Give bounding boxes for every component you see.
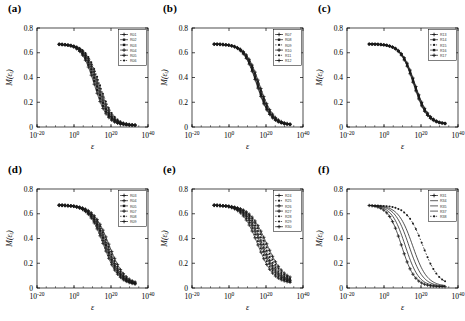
plot-area: 00.20.40.60.810-2010010201040εM(εᵢ)R31R3… (310, 161, 465, 321)
y-tick-label: 0.8 (179, 24, 189, 33)
legend-sample-marker (278, 44, 280, 46)
y-tick-label: 0.4 (334, 234, 344, 243)
legend-label: R37 (440, 209, 447, 213)
series-marker (61, 44, 63, 46)
series-marker (119, 120, 121, 122)
plot-svg: 00.20.40.60.810-2010010201040εM(εᵢ)R07R0… (155, 0, 310, 160)
series-marker (257, 240, 259, 242)
legend-label: R16 (440, 49, 447, 53)
legend-label: R27 (285, 209, 292, 213)
figure-panel-grid: (a)00.20.40.60.810-2010010201040εM(εᵢ)R0… (0, 0, 465, 321)
series-marker (386, 205, 388, 207)
chart-panel-f: (f)00.20.40.60.810-2010010201040εM(εᵢ)R3… (310, 161, 465, 321)
x-tick-label: 1020 (260, 130, 273, 140)
y-tick-label: 0.2 (334, 258, 344, 267)
series-marker (117, 119, 119, 121)
series-marker (371, 204, 373, 206)
x-tick-label: 100 (69, 291, 80, 301)
series-marker (131, 124, 133, 126)
x-tick-label: 1020 (105, 291, 118, 301)
y-tick-label: 0.4 (179, 234, 189, 243)
series-marker (263, 254, 265, 256)
chart-panel-e: (e)00.20.40.60.810-2010010201040εM(εᵢ)R2… (155, 161, 310, 321)
series-marker (444, 280, 446, 282)
legend-label: R07 (285, 33, 292, 37)
y-axis-label: M(εᵢ) (160, 69, 169, 87)
legend-label: R28 (285, 214, 292, 218)
legend-label: R15 (440, 44, 447, 48)
legend: R01R02R03R04R05R06 (119, 30, 147, 66)
series-marker (269, 256, 271, 258)
series-marker (64, 44, 66, 46)
chart-panel-c: (c)00.20.40.60.810-2010010201040εM(εᵢ)R1… (310, 0, 465, 160)
y-tick-label: 0.6 (179, 209, 189, 218)
legend-sample-marker (278, 39, 280, 41)
series-marker (79, 47, 81, 49)
legend-label: R29 (285, 220, 292, 224)
y-tick-label: 0.6 (24, 209, 34, 218)
y-tick-label: 0.4 (24, 73, 34, 82)
y-axis-label: M(εᵢ) (315, 229, 324, 247)
series-marker (96, 76, 98, 78)
legend-label: R17 (440, 54, 447, 58)
series-marker (67, 44, 69, 46)
series-marker (368, 204, 370, 206)
series-marker (58, 44, 60, 46)
legend-label: R02 (130, 38, 137, 42)
y-tick-label: 0.6 (334, 48, 344, 57)
legend-sample-marker (278, 199, 280, 201)
series-marker (82, 49, 84, 51)
series-marker (427, 256, 429, 258)
legend-label: R05 (130, 204, 137, 208)
series-marker (412, 222, 414, 224)
series-marker (73, 45, 75, 47)
chart-panel-b: (b)00.20.40.60.810-2010010201040εM(εᵢ)R0… (155, 0, 310, 160)
series-marker (99, 84, 101, 86)
x-tick-label: 1040 (142, 130, 155, 140)
x-tick-label: 100 (379, 291, 390, 301)
legend-label: R06 (130, 59, 137, 63)
series-marker (134, 124, 136, 126)
x-tick-label: 10-20 (30, 291, 45, 301)
legend-sample-marker (123, 39, 125, 41)
legend-sample-marker (123, 215, 125, 217)
series-marker (111, 112, 113, 114)
y-tick-label: 0.2 (24, 98, 34, 107)
legend-label: R08 (130, 214, 137, 218)
legend-sample-marker (278, 220, 280, 222)
plot-area: 00.20.40.60.810-2010010201040εM(εᵢ)R13R1… (310, 0, 465, 160)
legend-label: R04 (130, 199, 137, 203)
series-marker (125, 123, 127, 125)
series-marker (277, 270, 279, 272)
series-marker (389, 205, 391, 207)
x-tick-label: 10-20 (30, 130, 45, 140)
series-marker (70, 44, 72, 46)
y-tick-label: 0.8 (24, 184, 34, 193)
legend-label: R09 (130, 220, 137, 224)
x-tick-label: 1040 (452, 130, 465, 140)
legend-label: R24 (285, 194, 292, 198)
series-marker (421, 241, 423, 243)
x-tick-label: 100 (224, 130, 235, 140)
plot-svg: 00.20.40.60.810-2010010201040εM(εᵢ)R24R2… (155, 161, 310, 321)
series-marker (424, 249, 426, 251)
series-marker (260, 247, 262, 249)
plot-area: 00.20.40.60.810-2010010201040εM(εᵢ)R07R0… (155, 0, 310, 160)
legend-label: R26 (285, 204, 292, 208)
series-marker (435, 272, 437, 274)
series-marker (394, 206, 396, 208)
series-marker (254, 233, 256, 235)
legend-label: R10 (285, 49, 292, 53)
x-tick-label: 10-20 (185, 291, 200, 301)
x-tick-label: 10-20 (340, 130, 355, 140)
series-marker (409, 217, 411, 219)
series-marker (272, 258, 274, 260)
x-tick-label: 10-20 (340, 291, 355, 301)
legend-sample-marker (123, 59, 125, 61)
series-marker (272, 269, 274, 271)
plot-svg: 00.20.40.60.810-2010010201040εM(εᵢ)R13R1… (310, 0, 465, 160)
series-marker (429, 262, 431, 264)
chart-panel-d: (d)00.20.40.60.810-2010010201040εM(εᵢ)R0… (0, 161, 155, 321)
x-tick-label: 1040 (452, 291, 465, 301)
series-marker (263, 239, 265, 241)
